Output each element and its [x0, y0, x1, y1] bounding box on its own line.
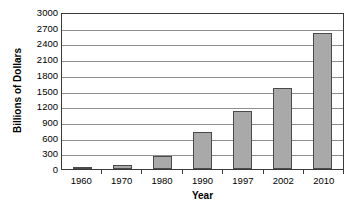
- x-axis-tick-label: 1980: [142, 174, 182, 188]
- x-axis-tick-label: 1990: [182, 174, 222, 188]
- y-axis-tick-labels: 30002700240021001800150012009006003000: [26, 8, 58, 173]
- bar-1980[interactable]: [153, 156, 172, 169]
- bar-2002[interactable]: [273, 88, 292, 169]
- x-axis-tick-label: 2010: [304, 174, 344, 188]
- x-axis-tick-labels: 1960197019801990199720022010: [61, 174, 344, 188]
- y-axis-tick-label: 900: [26, 118, 58, 128]
- x-axis-title: Year: [61, 190, 344, 201]
- y-axis-tick-label: 2400: [26, 39, 58, 49]
- bar-1997[interactable]: [233, 111, 252, 169]
- y-axis-title-label: Billions of Dollars: [12, 47, 23, 132]
- y-axis-tick-label: 1500: [26, 87, 58, 97]
- bars-group: [62, 14, 343, 169]
- y-axis-title: Billions of Dollars: [8, 20, 26, 160]
- bar-slot: [142, 14, 182, 169]
- bar-slot: [62, 14, 102, 169]
- plot-area: [61, 13, 344, 170]
- y-axis-tick-label: 600: [26, 134, 58, 144]
- bar-slot: [263, 14, 303, 169]
- bar-1960[interactable]: [73, 167, 92, 170]
- bar-1990[interactable]: [193, 132, 212, 169]
- bar-chart: Billions of Dollars 30002700240021001800…: [0, 0, 355, 216]
- y-axis-tick-label: 300: [26, 149, 58, 159]
- y-axis-tick-label: 3000: [26, 8, 58, 18]
- bar-slot: [303, 14, 343, 169]
- bar-1970[interactable]: [113, 165, 132, 169]
- y-axis-tick-label: 1800: [26, 71, 58, 81]
- y-axis-tick-label: 1200: [26, 102, 58, 112]
- bar-slot: [102, 14, 142, 169]
- x-axis-tick-label: 1960: [61, 174, 101, 188]
- y-axis-tick-label: 0: [26, 165, 58, 175]
- x-axis-tick-label: 1997: [223, 174, 263, 188]
- bar-slot: [182, 14, 222, 169]
- x-axis-tick-label: 1970: [101, 174, 141, 188]
- x-axis-tick-label: 2002: [263, 174, 303, 188]
- y-axis-tick-label: 2100: [26, 55, 58, 65]
- bar-slot: [223, 14, 263, 169]
- y-axis-tick-label: 2700: [26, 24, 58, 34]
- bar-2010[interactable]: [313, 33, 332, 169]
